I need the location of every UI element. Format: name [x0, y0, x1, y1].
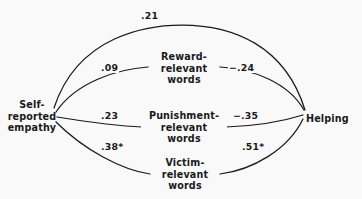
node-label-line: Reward-	[150, 51, 218, 63]
node-label-line: Punishment-	[141, 110, 227, 122]
path-diagram: Self- reported empathy Helping Reward- r…	[0, 0, 362, 199]
node-label-line: relevant	[141, 122, 227, 134]
node-label-line: words	[150, 74, 218, 86]
node-label-line: reported	[6, 111, 58, 123]
path-coefficient-reward-to-helping: −.24	[228, 62, 255, 73]
node-self-reported-empathy[interactable]: Self- reported empathy	[6, 99, 58, 134]
node-reward-relevant-words[interactable]: Reward- relevant words	[150, 51, 218, 86]
path-coefficient-direct: .21	[140, 10, 159, 21]
node-label-line: Self-	[6, 99, 58, 111]
path-coefficient-punishment-to-helping: −.35	[232, 110, 259, 121]
path-coefficient-victim-to-helping: .51*	[241, 141, 265, 152]
path-coefficient-empathy-to-victim: .38*	[100, 141, 124, 152]
path-line-empathy-to-reward	[56, 67, 148, 112]
node-label-line: words	[152, 180, 218, 192]
path-coefficient-empathy-to-reward: .09	[100, 62, 119, 73]
node-label-line: Helping	[306, 113, 358, 125]
node-label-line: relevant	[152, 169, 218, 181]
path-coefficient-empathy-to-punishment: .23	[100, 110, 119, 121]
node-punishment-relevant-words[interactable]: Punishment- relevant words	[141, 110, 227, 145]
node-label-line: relevant	[150, 63, 218, 75]
node-victim-relevant-words[interactable]: Victim- relevant words	[152, 157, 218, 192]
node-label-line: empathy	[6, 122, 58, 134]
node-label-line: words	[141, 133, 227, 145]
path-line-reward-to-helping	[220, 67, 304, 110]
node-label-line: Victim-	[152, 157, 218, 169]
node-helping[interactable]: Helping	[306, 113, 358, 125]
